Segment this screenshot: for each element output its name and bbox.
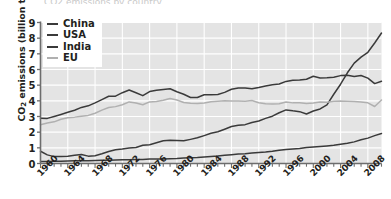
legend-item-india: India [47, 41, 95, 53]
chart-figure: CO2 emissions by country CO2 emissions (… [0, 0, 391, 199]
legend-item-usa: USA [47, 30, 95, 42]
y-tick-label: 1 [12, 142, 36, 153]
legend-swatch-icon [47, 23, 58, 25]
legend-label: India [63, 42, 91, 52]
y-tick-label: 8 [12, 33, 36, 44]
y-tick-label: 5 [12, 80, 36, 91]
legend-swatch-icon [47, 57, 58, 59]
legend-label: USA [63, 30, 86, 40]
legend-swatch-icon [47, 34, 58, 36]
y-tick-label: 9 [12, 17, 36, 28]
legend-label: China [63, 19, 95, 29]
y-tick-label: 2 [12, 127, 36, 138]
y-tick-label: 0 [12, 158, 36, 169]
y-tick-label: 3 [12, 111, 36, 122]
legend-item-china: China [47, 18, 95, 30]
y-tick-label: 7 [12, 48, 36, 59]
y-tick-label: 4 [12, 95, 36, 106]
legend-swatch-icon [47, 46, 58, 48]
y-tick-label: 6 [12, 64, 36, 75]
legend-item-eu: EU [47, 53, 95, 65]
chart-legend: ChinaUSAIndiaEU [43, 16, 102, 67]
legend-label: EU [63, 53, 78, 63]
